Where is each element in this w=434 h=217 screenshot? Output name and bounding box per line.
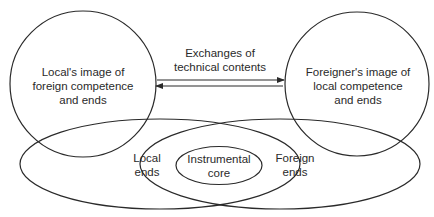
local-ends-line-2: ends — [125, 165, 169, 179]
diagram: Local's image of foreign competence and … — [0, 0, 434, 217]
left-circle-label: Local's image of foreign competence and … — [28, 65, 138, 107]
left-circle-line-3: and ends — [28, 93, 138, 107]
left-circle-line-2: foreign competence — [28, 79, 138, 93]
foreign-ends-label: Foreign ends — [270, 151, 320, 179]
local-ends-line-1: Local — [125, 151, 169, 165]
core-line-2: core — [184, 166, 254, 180]
core-line-1: Instrumental — [184, 152, 254, 166]
left-circle-line-1: Local's image of — [28, 65, 138, 79]
right-circle-line-1: Foreigner's image of — [298, 65, 418, 79]
foreign-ends-line-1: Foreign — [270, 151, 320, 165]
right-circle-label: Foreigner's image of local competence an… — [298, 65, 418, 107]
exchange-line-1: Exchanges of — [165, 46, 275, 60]
exchange-line-2: technical contents — [165, 60, 275, 74]
diagram-shapes — [0, 0, 434, 217]
local-ends-label: Local ends — [125, 151, 169, 179]
exchange-label: Exchanges of technical contents — [165, 46, 275, 74]
right-circle-line-3: and ends — [298, 93, 418, 107]
right-circle-line-2: local competence — [298, 79, 418, 93]
core-label: Instrumental core — [184, 152, 254, 180]
foreign-ends-line-2: ends — [270, 165, 320, 179]
